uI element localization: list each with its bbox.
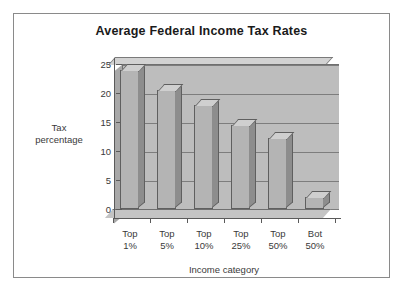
x-tick-3 [224, 218, 225, 223]
plot-floor [105, 209, 331, 218]
x-tick-6 [335, 218, 336, 223]
x-tick-1 [150, 218, 151, 223]
bar-side-face [286, 133, 293, 208]
x-axis-title: Income category [74, 264, 374, 275]
x-tick-0 [113, 218, 114, 223]
y-tick-0: 0 [116, 209, 122, 210]
bar-top-1pct[interactable] [120, 70, 139, 209]
gridline-25 [123, 65, 339, 66]
x-label-line-1: Bot [293, 228, 337, 240]
plot-area: 25 20 15 10 5 0 [108, 64, 346, 226]
y-tick-label-0: 0 [106, 204, 111, 215]
y-tick-25: 25 [116, 64, 122, 65]
y-tick-label-25: 25 [100, 59, 111, 70]
x-tick-4 [261, 218, 262, 223]
y-tick-label-5: 5 [106, 175, 111, 186]
bar-side-face [175, 85, 182, 208]
bar-bot-50pct[interactable] [305, 197, 324, 209]
x-axis-line [113, 218, 341, 219]
y-axis-ticks: 25 20 15 10 5 0 [115, 64, 116, 209]
gridline-20 [123, 94, 339, 95]
chart-title: Average Federal Income Tax Rates [14, 24, 389, 38]
bar-top-50pct[interactable] [268, 138, 287, 209]
y-axis-title-line-2: percentage [20, 134, 98, 146]
gridline-15 [123, 123, 339, 124]
y-axis-title-line-1: Tax [20, 122, 98, 134]
y-tick-label-15: 15 [100, 117, 111, 128]
y-tick-label-20: 20 [100, 88, 111, 99]
bar-side-face [138, 65, 145, 208]
x-tick-2 [187, 218, 188, 223]
x-axis-labels: Top 1% Top 5% Top 10% Top 25% Top 50% Bo… [108, 228, 346, 258]
x-label-line-2: 50% [293, 240, 337, 252]
bar-side-face [249, 120, 256, 208]
chart-frame: Average Federal Income Tax Rates Tax per… [13, 13, 390, 278]
bar-side-face [212, 100, 219, 208]
x-tick-5 [298, 218, 299, 223]
bar-top-5pct[interactable] [157, 90, 176, 209]
bar-top-10pct[interactable] [194, 105, 213, 209]
y-tick-label-10: 10 [100, 146, 111, 157]
x-label-bot-50pct: Bot 50% [293, 228, 337, 252]
bar-top-25pct[interactable] [231, 125, 250, 209]
y-axis-title: Tax percentage [20, 122, 98, 146]
